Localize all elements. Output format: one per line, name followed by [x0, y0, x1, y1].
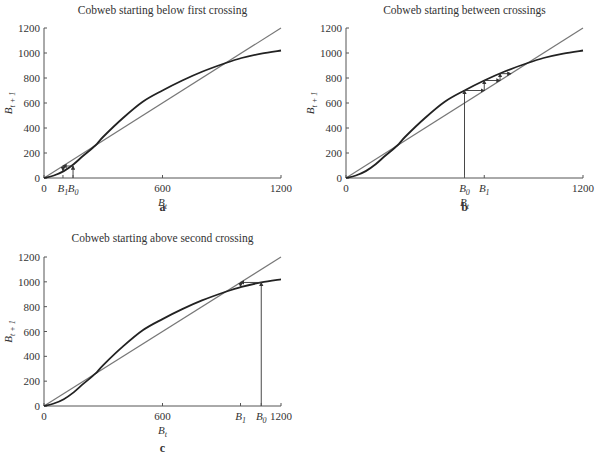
- y-tick-label: 200: [24, 375, 41, 387]
- marker-label-b0: B0: [256, 410, 267, 425]
- x-axis-label: Bt: [158, 424, 168, 439]
- replacement-line: [44, 257, 281, 406]
- chart-title: Cobweb starting below first crossing: [78, 4, 248, 17]
- y-tick-label: 200: [24, 147, 41, 159]
- x-tick-label: 0: [41, 410, 47, 422]
- y-tick-label: 1200: [18, 22, 41, 34]
- y-tick-label: 1000: [18, 47, 41, 59]
- panel-a: Cobweb starting below first crossing0200…: [2, 4, 293, 214]
- y-tick-label: 800: [326, 72, 343, 84]
- y-tick-label: 0: [337, 172, 343, 184]
- y-axis-label: Bt + 1: [2, 92, 17, 114]
- x-tick-label: 600: [154, 410, 171, 422]
- y-tick-label: 1000: [320, 47, 343, 59]
- y-axis-label: Bt + 1: [2, 320, 17, 342]
- marker-label-b0: B0: [459, 182, 470, 197]
- x-tick-label: 1200: [572, 182, 595, 194]
- panel-caption: a: [160, 200, 166, 214]
- y-axis-label-text: Bt + 1: [2, 320, 17, 342]
- y-axis-label: Bt + 1: [304, 92, 319, 114]
- chart-title: Cobweb starting between crossings: [383, 4, 546, 17]
- x-tick-label: 0: [343, 182, 349, 194]
- y-tick-label: 600: [24, 326, 41, 338]
- marker-label-b1: B1: [235, 410, 246, 425]
- y-tick-label: 1000: [18, 276, 41, 288]
- y-tick-label: 800: [24, 72, 41, 84]
- x-tick-label: 600: [154, 182, 171, 194]
- cobweb-figure: Cobweb starting below first crossing0200…: [0, 0, 607, 462]
- y-tick-label: 600: [326, 97, 343, 109]
- y-tick-label: 400: [326, 122, 343, 134]
- chart-title: Cobweb starting above second crossing: [71, 232, 253, 245]
- panel-b: Cobweb starting between crossings0200400…: [304, 4, 595, 214]
- panel-caption: b: [461, 200, 468, 214]
- y-tick-label: 800: [24, 301, 41, 313]
- replacement-line: [44, 28, 281, 178]
- y-axis-label-text: Bt + 1: [304, 92, 319, 114]
- recruitment-curve: [44, 51, 281, 179]
- marker-label-b0: B0: [68, 182, 79, 197]
- y-tick-label: 600: [24, 97, 41, 109]
- y-tick-label: 200: [326, 147, 343, 159]
- x-tick-label: 1200: [270, 182, 293, 194]
- y-tick-label: 400: [24, 350, 41, 362]
- y-tick-label: 1200: [320, 22, 343, 34]
- y-tick-label: 1200: [18, 251, 41, 263]
- y-tick-label: 0: [35, 400, 41, 412]
- y-axis-label-text: Bt + 1: [2, 92, 17, 114]
- panel-caption: c: [160, 441, 166, 455]
- x-tick-label: 1200: [270, 410, 293, 422]
- y-tick-label: 400: [24, 122, 41, 134]
- marker-label-b1: B1: [479, 182, 490, 197]
- x-tick-label: 0: [41, 182, 47, 194]
- y-tick-label: 0: [35, 172, 41, 184]
- recruitment-curve: [44, 279, 281, 406]
- panel-c: Cobweb starting above second crossing020…: [2, 232, 293, 455]
